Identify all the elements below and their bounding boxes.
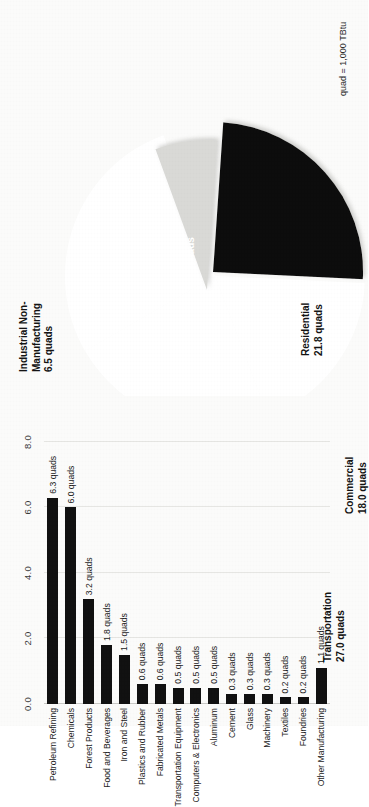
- bar-row: Plastics and Rubber0.6 quads: [133, 354, 151, 704]
- bar-category-label: Computers & Electronics: [191, 708, 201, 803]
- x-axis-tick-label: 4.0: [22, 566, 33, 580]
- bar-row: Food and Beverages1.8 quads: [98, 354, 116, 704]
- bar-rect: [65, 508, 76, 705]
- bar-value-label: 1.5 quads: [119, 613, 129, 655]
- bar-row: Foundries0.2 quads: [294, 354, 312, 704]
- bar-rect: [190, 688, 201, 704]
- bar-category-label: Iron and Steel: [119, 708, 129, 762]
- bar-category-label: Foundries: [298, 708, 308, 746]
- bar-chart-series: Petroleum Refining6.3 quadsChemicals6.0 …: [44, 354, 330, 704]
- pie-label-residential: Residential 21.8 quads: [300, 246, 325, 356]
- bar-rect: [280, 697, 291, 704]
- figure-footnote: quad = 1,000 TBtu: [338, 22, 348, 96]
- bar-category-label: Fabricated Metals: [155, 708, 165, 776]
- bar-rect: [226, 694, 237, 704]
- x-axis-tick-label: 6.0: [22, 501, 33, 515]
- bar-value-label: 0.5 quads: [173, 646, 183, 688]
- bar-value-label: 6.0 quads: [66, 466, 76, 508]
- bar-value-label: 0.3 quads: [245, 652, 255, 694]
- bar-category-label: Food and Beverages: [102, 708, 112, 788]
- bar-value-label: 6.3 quads: [48, 456, 58, 498]
- bar-chart-x-axis: 0.02.04.06.08.0: [22, 354, 44, 704]
- energy-consumption-pie-chart: Industrial Manufacturing 24.0 quads Indu…: [0, 0, 368, 396]
- pie-slice-industrial-manufacturing: [213, 122, 363, 279]
- bar-category-label: Chemicals: [66, 708, 76, 748]
- bar-row: Chemicals6.0 quads: [62, 354, 80, 704]
- bar-rect: [137, 684, 148, 704]
- bar-row: Computers & Electronics0.5 quads: [187, 354, 205, 704]
- bar-row: Iron and Steel1.5 quads: [116, 354, 134, 704]
- bar-rect: [316, 668, 327, 704]
- bar-row: Aluminum0.5 quads: [205, 354, 223, 704]
- bar-row: Textiles0.2 quads: [276, 354, 294, 704]
- bar-category-label: Other Manufacturing: [316, 708, 326, 786]
- bar-row: Glass0.3 quads: [241, 354, 259, 704]
- bar-row: Transportation Equipment0.5 quads: [169, 354, 187, 704]
- bar-rect: [173, 688, 184, 704]
- bar-value-label: 0.2 quads: [280, 656, 290, 698]
- bar-category-label: Forest Products: [84, 708, 94, 769]
- bar-row: Cement0.3 quads: [223, 354, 241, 704]
- bar-category-label: Cement: [227, 708, 237, 738]
- bar-value-label: 0.3 quads: [227, 652, 237, 694]
- x-axis-tick-label: 0.0: [22, 697, 33, 711]
- x-axis-tick-label: 2.0: [22, 632, 33, 646]
- pie-label-transportation: Transportation 27.0 quads: [322, 542, 347, 662]
- bar-rect: [208, 688, 219, 704]
- bar-value-label: 3.2 quads: [84, 557, 94, 599]
- pie-label-industrial-manufacturing: Industrial Manufacturing 24.0 quads: [160, 208, 198, 318]
- bar-category-label: Textiles: [280, 708, 290, 737]
- bar-row: Machinery0.3 quads: [259, 354, 277, 704]
- bar-category-label: Plastics and Rubber: [137, 708, 147, 785]
- bar-rect: [119, 655, 130, 704]
- bar-row: Fabricated Metals0.6 quads: [151, 354, 169, 704]
- bar-value-label: 1.8 quads: [102, 603, 112, 645]
- bar-value-label: 0.2 quads: [298, 656, 308, 698]
- bar-value-label: 0.3 quads: [262, 652, 272, 694]
- bar-category-label: Glass: [245, 708, 255, 730]
- bar-category-label: Machinery: [262, 708, 272, 748]
- bar-rect: [262, 694, 273, 704]
- bar-rect: [244, 694, 255, 704]
- bar-row: Forest Products3.2 quads: [80, 354, 98, 704]
- bar-rect: [47, 498, 58, 704]
- industrial-manufacturing-bar-chart: 0.02.04.06.08.0 Petroleum Refining6.3 qu…: [22, 354, 352, 704]
- bar-category-label: Petroleum Refining: [48, 708, 58, 781]
- bar-value-label: 0.5 quads: [209, 646, 219, 688]
- pie-label-commercial: Commercial 18.0 quads: [344, 404, 369, 514]
- bar-value-label: 0.5 quads: [191, 646, 201, 688]
- bar-rect: [155, 684, 166, 704]
- bar-category-label: Transportation Equipment: [173, 708, 183, 807]
- bar-rect: [298, 697, 309, 704]
- bar-category-label: Aluminum: [209, 708, 219, 746]
- bar-value-label: 0.6 quads: [137, 643, 147, 685]
- bar-rect: [101, 645, 112, 704]
- pie-label-industrial-non-manufacturing: Industrial Non- Manufacturing 6.5 quads: [18, 242, 56, 372]
- bar-value-label: 0.6 quads: [155, 643, 165, 685]
- bar-rect: [83, 599, 94, 704]
- x-axis-tick-label: 8.0: [22, 435, 33, 449]
- bar-row: Petroleum Refining6.3 quads: [44, 354, 62, 704]
